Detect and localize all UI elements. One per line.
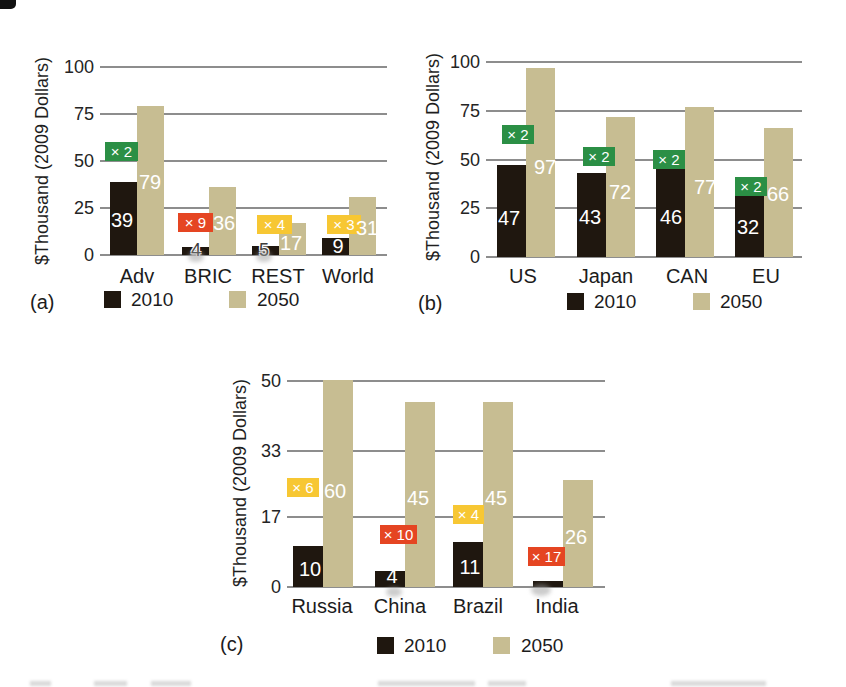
legend-label-2010: 2010 (404, 635, 446, 656)
legend-swatch-2050 (693, 293, 710, 310)
bar-value-label: 79 (124, 171, 176, 193)
y-axis-title: $Thousand (2009 Dollars) (31, 54, 53, 268)
bar-value-label: 97 (519, 156, 571, 178)
y-tick-label: 25 (54, 198, 94, 218)
y-tick-label: 100 (54, 57, 94, 77)
legend-swatch-2010 (567, 293, 584, 310)
panel-label-b: (b) (418, 291, 442, 315)
bar-value-label: 36 (198, 212, 250, 234)
scan-smudge (386, 587, 402, 597)
x-axis-label-india: India (512, 596, 602, 617)
cropped-caption-remnant (671, 681, 766, 686)
growth-multiplier-badge-adv: × 2 (105, 142, 138, 161)
scan-smudge (531, 584, 551, 596)
gridline (486, 61, 802, 63)
bar-value-label: 10 (284, 558, 336, 580)
cropped-caption-remnant (151, 681, 191, 686)
growth-multiplier-badge-japan: × 2 (583, 147, 615, 166)
bar-value-label: 31 (341, 217, 393, 239)
x-axis-label-us: US (478, 266, 568, 287)
legend-swatch-2050 (493, 637, 510, 654)
y-tick-label: 0 (54, 245, 94, 265)
y-axis-title: $Thousand (2009 Dollars) (422, 50, 444, 264)
scan-smudge (188, 251, 204, 262)
bar-value-label: 45 (392, 487, 444, 509)
growth-multiplier-badge-china: × 10 (380, 525, 417, 544)
y-tick-label: 0 (440, 247, 480, 267)
x-axis-label-brazil: Brazil (433, 596, 523, 617)
growth-multiplier-badge-india: × 17 (528, 547, 565, 566)
legend-label-2010: 2010 (131, 289, 173, 310)
cropped-caption-remnant (30, 681, 51, 686)
x-axis-label-eu: EU (721, 266, 811, 287)
legend-swatch-2010 (104, 291, 121, 308)
scan-smudge (256, 251, 272, 262)
y-tick-label: 50 (440, 150, 480, 170)
bar-value-label: 32 (722, 216, 774, 238)
cropped-caption-remnant (94, 681, 127, 686)
y-tick-label: 75 (54, 104, 94, 124)
scan-corner-mark (0, 0, 16, 9)
panel-label-c: (c) (220, 632, 243, 656)
x-axis-label-china: China (355, 596, 445, 617)
x-axis-label-russia: Russia (277, 596, 367, 617)
bar-value-label: 11 (444, 556, 496, 578)
three-panel-bar-chart-figure: 0255075100$Thousand (2009 Dollars)Adv× 2… (0, 0, 846, 687)
bar-value-label: 47 (483, 207, 535, 229)
growth-multiplier-badge-us: × 2 (502, 125, 534, 144)
legend-label-2050: 2050 (720, 291, 762, 312)
x-axis-label-world: World (303, 266, 393, 287)
cropped-caption-remnant (488, 681, 526, 686)
legend-label-2050: 2050 (257, 289, 299, 310)
y-tick-label: 50 (54, 151, 94, 171)
y-tick-label: 75 (440, 101, 480, 121)
bar-value-label: 45 (470, 487, 522, 509)
bar-value-label: 17 (265, 232, 317, 254)
gridline (100, 66, 387, 68)
legend-swatch-2010 (377, 637, 394, 654)
legend-label-2050: 2050 (521, 635, 563, 656)
bar-value-label: 46 (645, 206, 697, 228)
bar-value-label: 60 (309, 480, 361, 502)
bar-value-label: 77 (679, 176, 731, 198)
panel-label-a: (a) (30, 290, 54, 314)
legend-swatch-2050 (229, 291, 246, 308)
x-axis-label-japan: Japan (561, 266, 651, 287)
y-tick-label: 100 (440, 52, 480, 72)
x-axis-label-can: CAN (642, 266, 732, 287)
y-tick-label: 25 (440, 198, 480, 218)
bar-value-label: 39 (96, 209, 148, 231)
bar-value-label: 4 (366, 565, 418, 587)
y-axis-title: $Thousand (2009 Dollars) (229, 376, 251, 590)
bar-value-label: 43 (564, 206, 616, 228)
legend-label-2010: 2010 (594, 291, 636, 312)
cropped-caption-remnant (378, 681, 475, 686)
bar-value-label: 26 (550, 526, 602, 548)
bar-value-label: 72 (594, 181, 646, 203)
growth-multiplier-badge-can: × 2 (653, 150, 685, 169)
bar-value-label: 66 (752, 183, 804, 205)
